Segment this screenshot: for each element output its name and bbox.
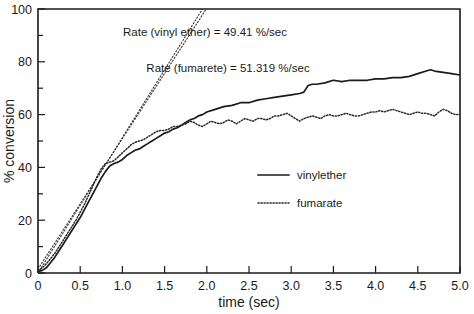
y-tick-label: 100 <box>11 3 32 17</box>
chart-legend: vinylether fumarate <box>258 169 346 209</box>
x-tick-label: 0.5 <box>72 279 89 293</box>
x-tick-label: 3.5 <box>325 279 342 293</box>
x-tick-label: 0 <box>35 279 42 293</box>
legend-label-vinylether: vinylether <box>297 169 346 181</box>
chart-canvas: 020406080100 00.51.01.52.02.53.03.54.04.… <box>0 0 474 314</box>
y-tick-label: 60 <box>18 108 32 122</box>
y-tick-label: 20 <box>18 214 32 228</box>
x-tick-label: 3.0 <box>283 279 300 293</box>
y-tick-label: 0 <box>25 267 32 281</box>
x-tick-label: 4.0 <box>367 279 384 293</box>
series-fumarate-line <box>38 109 460 270</box>
annotation-fumarate-rate: Rate (fumarete) = 51.319 %/sec <box>146 62 310 74</box>
y-axis-title: % conversion <box>1 99 17 183</box>
x-tick-label: 1.5 <box>156 279 173 293</box>
x-tick-label: 5.0 <box>451 279 468 293</box>
legend-label-fumarate: fumarate <box>297 197 342 209</box>
fumarate-rate-fit <box>38 9 203 273</box>
x-axis-tick-labels: 00.51.01.52.02.53.03.54.04.55.0 <box>35 279 469 293</box>
y-tick-label: 80 <box>18 55 32 69</box>
x-tick-label: 2.0 <box>198 279 215 293</box>
x-tick-label: 4.5 <box>409 279 426 293</box>
y-tick-label: 40 <box>18 161 32 175</box>
vinyl-ether-rate-fit <box>38 8 207 269</box>
x-tick-label: 2.5 <box>240 279 257 293</box>
chart-figure: 020406080100 00.51.01.52.02.53.03.54.04.… <box>0 0 474 314</box>
x-axis-ticks <box>38 266 460 273</box>
rate-fit-lines <box>38 8 207 273</box>
x-axis-title: time (sec) <box>218 294 279 310</box>
plot-frame <box>38 9 460 273</box>
x-tick-label: 1.0 <box>114 279 131 293</box>
annotation-vinyl-ether-rate: Rate (vinyl ether) = 49.41 %/sec <box>123 26 287 38</box>
